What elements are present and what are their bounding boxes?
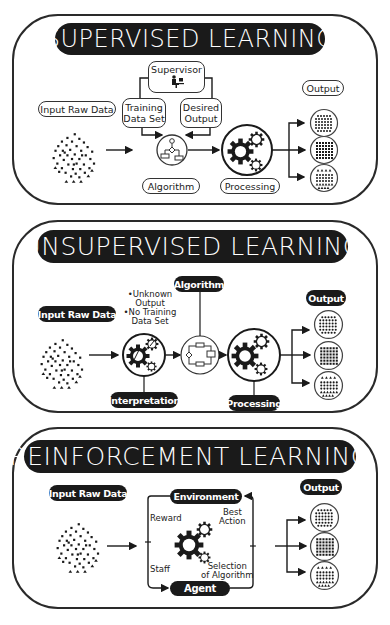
raw-data-scatter-icon bbox=[57, 523, 100, 573]
reinforcement-diagram-graphics bbox=[0, 0, 390, 625]
output-dot-grid-icon bbox=[311, 504, 339, 532]
output-square-grid-icon bbox=[311, 533, 339, 561]
output-triangle-grid-icon bbox=[311, 562, 339, 590]
gears-icon bbox=[175, 522, 213, 564]
